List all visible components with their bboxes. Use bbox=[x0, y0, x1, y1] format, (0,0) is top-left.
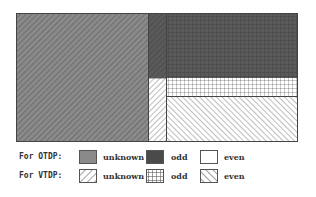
legend-vtdp-odd: odd bbox=[171, 171, 188, 181]
region-otdp-odd-vtdp-odd bbox=[166, 13, 298, 78]
swatch-vtdp-odd bbox=[147, 170, 164, 183]
legend-vtdp-swatches bbox=[80, 170, 218, 183]
swatch-vtdp-unknown bbox=[80, 170, 97, 183]
swatch-otdp-even bbox=[201, 151, 218, 164]
swatch-otdp-unknown bbox=[80, 151, 97, 164]
legend-otdp-odd: odd bbox=[171, 152, 188, 162]
region-otdp-unknown-vtdp-unknown bbox=[16, 13, 148, 142]
swatch-otdp-odd bbox=[147, 151, 164, 164]
region-otdp-even-vtdp-unknown bbox=[148, 78, 166, 142]
legend-vtdp-even: even bbox=[224, 171, 245, 181]
legend-vtdp-unknown: unknown bbox=[103, 171, 144, 181]
region-otdp-odd-vtdp-unknown bbox=[148, 13, 166, 78]
legend-vtdp-label: For VTDP: bbox=[19, 171, 62, 180]
legend-otdp-label: For OTDP: bbox=[19, 152, 62, 161]
swatch-vtdp-even bbox=[201, 170, 218, 183]
legend-otdp-even: even bbox=[224, 152, 245, 162]
region-otdp-even-vtdp-even bbox=[166, 96, 298, 142]
parity-diagram bbox=[0, 0, 316, 197]
legend-otdp-swatches bbox=[80, 151, 218, 164]
legend-otdp-unknown: unknown bbox=[103, 152, 144, 162]
region-otdp-even-vtdp-odd bbox=[166, 78, 298, 96]
